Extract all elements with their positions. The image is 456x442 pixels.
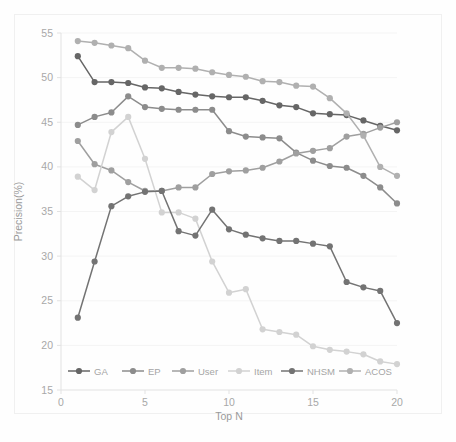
series-ep — [75, 93, 400, 206]
data-point — [360, 133, 366, 139]
legend-label: ACOS — [365, 366, 392, 377]
data-point — [75, 122, 81, 128]
data-point — [276, 158, 282, 164]
data-point — [75, 174, 81, 180]
data-point — [293, 83, 299, 89]
data-point — [310, 148, 316, 154]
data-point — [142, 58, 148, 64]
legend-item-ep[interactable]: EP — [122, 366, 161, 377]
data-point — [260, 235, 266, 241]
y-axis-title: Precision(%) — [12, 182, 24, 242]
data-point — [92, 79, 98, 85]
data-point — [125, 45, 131, 51]
data-point — [142, 156, 148, 162]
data-point — [394, 200, 400, 206]
legend-label: User — [198, 366, 218, 377]
series-line — [78, 117, 397, 364]
data-point — [108, 129, 114, 135]
data-point — [209, 93, 215, 99]
data-point — [293, 332, 299, 338]
data-point — [377, 184, 383, 190]
legend: GAEPUserItemNHSMACOS — [68, 366, 392, 377]
data-point — [176, 184, 182, 190]
data-point — [92, 161, 98, 167]
y-tick-label: 55 — [41, 27, 53, 39]
y-tick-label: 50 — [41, 71, 53, 83]
data-point — [75, 138, 81, 144]
data-point — [243, 167, 249, 173]
data-point — [108, 203, 114, 209]
series-group — [75, 38, 400, 367]
data-point — [125, 80, 131, 86]
data-point — [243, 133, 249, 139]
series-item — [75, 114, 400, 367]
data-point — [125, 114, 131, 120]
y-tick-label: 45 — [41, 116, 53, 128]
data-point — [344, 165, 350, 171]
data-point — [108, 79, 114, 85]
data-point — [260, 134, 266, 140]
data-point — [394, 173, 400, 179]
data-point — [159, 188, 165, 194]
data-point — [327, 111, 333, 117]
x-axis-title: Top N — [215, 410, 242, 422]
legend-item-acos[interactable]: ACOS — [339, 366, 392, 377]
data-point — [92, 114, 98, 120]
data-point — [92, 258, 98, 264]
legend-item-nhsm[interactable]: NHSM — [281, 366, 335, 377]
data-point — [209, 171, 215, 177]
legend-item-item[interactable]: Item — [228, 366, 273, 377]
precision-topn-line-chart: 15202530354045505505101520Top NPrecision… — [0, 0, 456, 442]
data-point — [108, 167, 114, 173]
data-point — [276, 135, 282, 141]
data-point — [192, 91, 198, 97]
legend-item-ga[interactable]: GA — [68, 366, 108, 377]
data-point — [226, 290, 232, 296]
data-point — [226, 128, 232, 134]
data-point — [360, 351, 366, 357]
x-axis-ticks: 05101520 — [58, 390, 403, 408]
y-tick-label: 35 — [41, 205, 53, 217]
legend-item-user[interactable]: User — [172, 366, 218, 377]
data-point — [159, 85, 165, 91]
y-tick-label: 40 — [41, 160, 53, 172]
data-point — [142, 84, 148, 90]
data-point — [243, 286, 249, 292]
data-point — [176, 89, 182, 95]
x-tick-label: 15 — [307, 396, 319, 408]
data-point — [276, 238, 282, 244]
data-point — [92, 187, 98, 193]
data-point — [377, 288, 383, 294]
data-point — [310, 343, 316, 349]
legend-marker — [76, 368, 82, 374]
data-point — [108, 109, 114, 115]
data-point — [394, 119, 400, 125]
x-tick-label: 10 — [223, 396, 235, 408]
data-point — [260, 78, 266, 84]
data-point — [394, 361, 400, 367]
data-point — [293, 238, 299, 244]
data-point — [192, 107, 198, 113]
series-line — [78, 41, 397, 176]
data-point — [327, 243, 333, 249]
data-point — [260, 98, 266, 104]
data-point — [192, 216, 198, 222]
data-point — [176, 107, 182, 113]
legend-label: GA — [94, 366, 108, 377]
data-point — [327, 347, 333, 353]
x-tick-label: 0 — [58, 396, 64, 408]
series-acos — [75, 38, 400, 179]
data-point — [344, 349, 350, 355]
y-tick-label: 20 — [41, 339, 53, 351]
data-point — [159, 106, 165, 112]
data-point — [209, 207, 215, 213]
data-point — [226, 226, 232, 232]
legend-marker — [130, 368, 136, 374]
legend-label: NHSM — [307, 366, 335, 377]
series-line — [78, 191, 397, 323]
data-point — [75, 38, 81, 44]
data-point — [260, 165, 266, 171]
data-point — [142, 104, 148, 110]
data-point — [360, 173, 366, 179]
y-tick-label: 15 — [41, 384, 53, 396]
